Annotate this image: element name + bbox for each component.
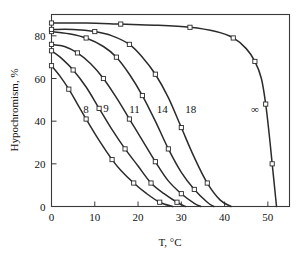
x-tick-label: 0 (49, 211, 55, 223)
curve-label-18: 18 (185, 103, 197, 115)
curve-label-11: 11 (129, 103, 140, 115)
data-point-marker (114, 55, 118, 59)
curve-label-14: 14 (157, 103, 169, 115)
x-axis-title: T, °C (158, 236, 181, 248)
data-point-marker (75, 51, 79, 55)
x-tick-label: 40 (219, 211, 231, 223)
data-point-marker (49, 27, 53, 31)
data-point-marker (140, 93, 144, 97)
data-point-marker (179, 125, 183, 129)
data-point-marker (84, 36, 88, 40)
curve-18 (52, 29, 232, 206)
data-point-marker (132, 181, 136, 185)
curve-14 (52, 32, 214, 207)
data-point-marker (49, 64, 53, 68)
data-point-marker (123, 147, 127, 151)
x-tick-label: 10 (89, 211, 101, 223)
data-point-marker (270, 162, 274, 166)
x-tick-label: 50 (262, 211, 274, 223)
data-point-marker (127, 42, 131, 46)
data-point-marker (110, 157, 114, 161)
curve-label-infinity: ∞ (251, 103, 259, 115)
y-tick-label: 80 (35, 30, 47, 42)
y-axis-title: Hypochromism, % (8, 68, 20, 151)
data-point-marker (205, 181, 209, 185)
data-point-marker (253, 59, 257, 63)
data-point-marker (127, 117, 131, 121)
figure-container: 01020304050 020406080 89111418∞ T, °C Hy… (0, 0, 305, 263)
y-tick-label: 40 (35, 115, 47, 127)
data-point-marker (71, 68, 75, 72)
data-point-marker (49, 42, 53, 46)
y-axis-ticks: 020406080 (35, 30, 57, 213)
data-point-marker (179, 192, 183, 196)
data-point-marker (175, 200, 179, 204)
data-point-marker (188, 25, 192, 29)
data-point-marker (231, 36, 235, 40)
data-point-marker (166, 147, 170, 151)
data-point-marker (67, 87, 71, 91)
hypochromism-melting-curve-chart: 01020304050 020406080 89111418∞ T, °C Hy… (0, 0, 305, 263)
y-tick-label: 20 (35, 158, 47, 170)
data-point-marker (153, 72, 157, 76)
data-point-marker (49, 21, 53, 25)
data-point-marker (84, 117, 88, 121)
data-point-marker (97, 106, 101, 110)
data-point-marker (153, 160, 157, 164)
data-point-marker (158, 200, 162, 204)
data-point-marker (149, 181, 153, 185)
curve-9 (52, 51, 186, 207)
y-tick-label: 60 (35, 73, 47, 85)
data-point-marker (93, 29, 97, 33)
curve-label-9: 9 (103, 102, 109, 114)
data-point-marker (49, 49, 53, 53)
data-point-marker (192, 187, 196, 191)
curve-infinity (52, 23, 277, 207)
data-point-marker (119, 22, 123, 26)
data-point-marker (264, 102, 268, 106)
y-tick-label: 0 (40, 201, 46, 213)
data-point-marker (101, 76, 105, 80)
x-tick-label: 20 (133, 211, 145, 223)
x-tick-label: 30 (176, 211, 188, 223)
curve-label-8: 8 (83, 103, 89, 115)
data-curves (52, 23, 277, 207)
